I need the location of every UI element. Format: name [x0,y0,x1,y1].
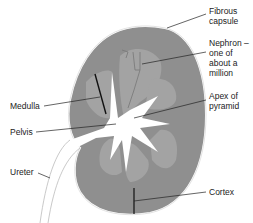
label-apex-of-pyramid: Apex of pyramid [209,91,239,111]
label-nephron: Nephron – one of about a million [209,38,249,78]
label-ureter: Ureter [10,167,34,177]
label-medulla: Medulla [10,101,40,111]
label-pelvis: Pelvis [10,127,33,137]
label-cortex: Cortex [209,187,234,197]
label-fibrous-capsule: Fibrous capsule [209,6,238,26]
